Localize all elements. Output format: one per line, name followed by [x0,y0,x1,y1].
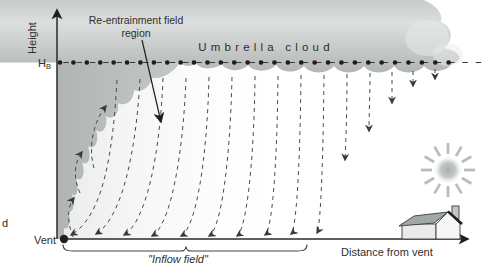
y-axis-label: Height [26,22,38,54]
figure-canvas: Height HB Vent d Umbrella cloud Re-entra… [0,0,497,272]
sun-icon [421,143,475,197]
reentrainment-label-line2: region [121,27,150,39]
umbrella-cloud-label: Umbrella cloud [198,41,334,53]
stray-left-edge-text: d [2,217,8,229]
umbrella-cloud-shape [0,0,460,72]
sun-core [434,156,462,184]
house-icon [399,206,462,239]
plume-diagram: Height HB Vent d Umbrella cloud Re-entra… [0,0,497,272]
streamline [317,75,324,233]
inflow-field-brace [63,245,307,252]
house-side-wall [402,224,436,239]
reentrainment-label-line1: Re-entrainment field [89,14,184,26]
hb-main: H [38,57,46,69]
streamline [369,73,370,131]
vent-label: Vent [34,234,56,246]
hb-subscript: B [46,62,51,71]
inflow-field-label: "Inflow field" [148,253,209,265]
vent-dot [60,235,68,243]
x-axis-label: Distance from vent [341,246,433,258]
streamline [345,74,347,160]
